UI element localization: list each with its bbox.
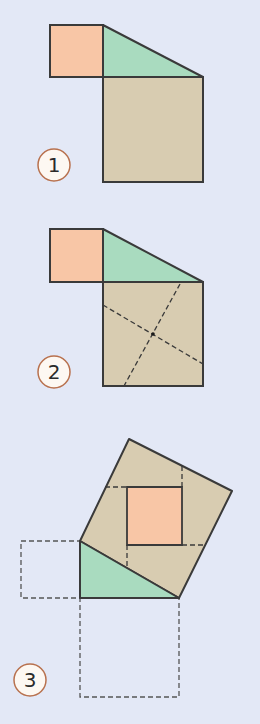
step-label-2: 2	[38, 356, 70, 388]
small-square	[50, 229, 103, 282]
right-triangle	[103, 229, 203, 282]
step-label-1: 1	[38, 149, 70, 181]
step-number: 3	[24, 668, 37, 692]
right-triangle	[103, 25, 203, 77]
small-square	[50, 25, 103, 77]
step-label-3: 3	[14, 664, 46, 696]
step-number: 1	[48, 153, 61, 177]
center-dot	[151, 332, 155, 336]
figure-3: 3	[14, 439, 232, 697]
pythagoras-diagram: 1 2 3	[0, 0, 260, 724]
dashed-small-square-outline	[21, 541, 80, 598]
step-number: 2	[48, 360, 61, 384]
large-square	[103, 77, 203, 182]
figure-2: 2	[38, 229, 203, 388]
dashed-large-square-outline	[80, 598, 179, 697]
figure-1: 1	[38, 25, 203, 182]
inner-small-square	[127, 487, 182, 545]
